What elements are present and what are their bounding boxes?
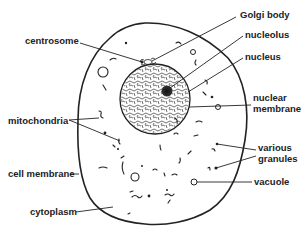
label-nuclear-membrane-line1: nuclear (253, 93, 287, 103)
label-various-granules-line2: granules (258, 154, 298, 164)
leader-granules-1 (217, 144, 256, 150)
label-centrosome: centrosome (25, 36, 79, 46)
leader-granules-2 (216, 156, 256, 168)
cell-diagram: Golgi body centrosome nucleolus nucleus … (0, 0, 308, 229)
label-golgi-body: Golgi body (240, 10, 290, 20)
label-nuclear-membrane-line2: membrane (253, 104, 301, 114)
golgi-centrosome-shape (140, 58, 156, 65)
leader-mitochondria-2 (69, 120, 120, 141)
label-cell-membrane: cell membrane (8, 169, 75, 179)
label-various-granules-line1: various (258, 143, 292, 153)
nucleus-shape (120, 64, 190, 134)
leader-cytoplasm (76, 207, 113, 212)
leader-nucleus (188, 58, 243, 92)
label-nucleolus: nucleolus (245, 30, 289, 40)
label-vacuole: vacuole (254, 177, 289, 187)
label-nucleus: nucleus (245, 52, 281, 62)
label-cytoplasm: cytoplasm (30, 207, 77, 217)
label-mitochondria: mitochondria (8, 116, 68, 126)
leader-mitochondria-1 (69, 118, 99, 120)
